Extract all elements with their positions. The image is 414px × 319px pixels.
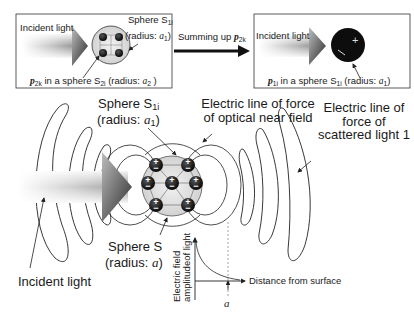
sphere-s: +− +− +− +− +− +− +−: [141, 156, 203, 216]
graph-y-label: Electric field amplitudeof light: [172, 233, 193, 302]
svg-text:−: −: [153, 203, 158, 213]
scattered-light-label: Electric line of force of scattered ligh…: [312, 101, 414, 142]
svg-text:−: −: [153, 163, 158, 173]
summing-label: Summing up p2k: [178, 32, 246, 43]
svg-text:+: +: [352, 34, 358, 46]
top-right-incident-label: Incident light: [256, 31, 309, 41]
svg-text:−: −: [169, 181, 174, 191]
sphere-s1i-dipole: [331, 28, 365, 62]
top-left-radius-label: (radius: a1): [125, 31, 171, 42]
top-left-caption: p2k in a sphere S2i (radius: a2 ): [30, 76, 157, 87]
sphere-s1i-radius-label: (radius: a1): [97, 113, 160, 129]
graph-marker-a: a: [224, 298, 230, 310]
top-right-caption: p1i in a sphere S1i (radius: a1): [268, 76, 390, 87]
top-left-incident-label: Incident light: [20, 23, 73, 33]
svg-text:−: −: [185, 203, 190, 213]
svg-text:−: −: [185, 163, 190, 173]
svg-text:−: −: [193, 181, 198, 191]
graph-x-label: Distance from surface: [249, 276, 341, 286]
scattered-lobes-right: [239, 108, 310, 261]
sphere-s-radius-label: (radius: a): [105, 256, 163, 270]
incident-beam-main: [18, 152, 132, 222]
field-decay-graph: [195, 222, 245, 300]
diagram-canvas: +: [0, 0, 414, 319]
incident-light-label: Incident light: [18, 275, 91, 289]
near-field-label: Electric line of force of optical near f…: [198, 97, 318, 124]
sphere-s-label: Sphere S: [108, 240, 162, 254]
summing-arrow: [174, 45, 250, 57]
sphere-s1i-label: Sphere S1i: [98, 97, 159, 113]
top-left-sphere-label: Sphere S1i: [128, 15, 173, 26]
svg-text:−: −: [145, 181, 150, 191]
